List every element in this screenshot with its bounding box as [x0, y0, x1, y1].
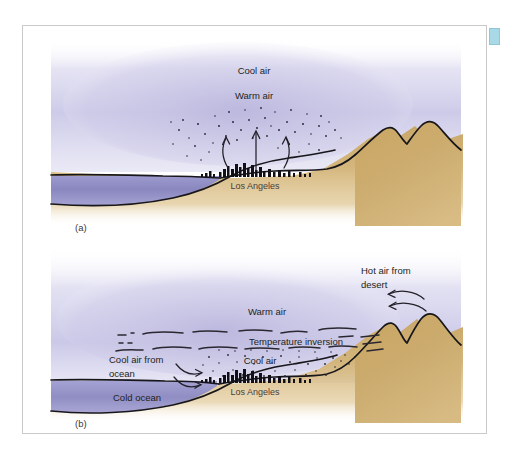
label-cool-air-from-ocean-line2: ocean — [109, 368, 135, 379]
label-cool-air-from-ocean-line1: Cool air from — [109, 354, 163, 365]
label-cool-air-b: Cool air — [244, 355, 277, 366]
caption-panel-b: (b) — [75, 418, 87, 429]
label-hot-air-from-desert-line2: desert — [361, 279, 388, 290]
panel-b: Warm air Temperature inversion Cool air … — [23, 231, 486, 433]
figure-frame: Cool air Warm air Los Angeles (a) — [22, 25, 487, 434]
panel-b-illustration: Warm air Temperature inversion Cool air … — [23, 231, 486, 433]
label-warm-air-a: Warm air — [235, 90, 273, 101]
label-cold-ocean: Cold ocean — [113, 392, 161, 403]
label-temperature-inversion: Temperature inversion — [249, 336, 343, 347]
label-cool-air-a: Cool air — [238, 65, 271, 76]
label-warm-air-b: Warm air — [248, 306, 286, 317]
label-los-angeles-b: Los Angeles — [230, 387, 280, 397]
panel-a: Cool air Warm air Los Angeles (a) — [23, 26, 486, 241]
panel-a-illustration: Cool air Warm air Los Angeles (a) — [23, 26, 486, 241]
label-hot-air-from-desert-line1: Hot air from — [361, 265, 411, 276]
corner-color-swatch — [489, 28, 500, 45]
label-los-angeles-a: Los Angeles — [230, 181, 280, 191]
